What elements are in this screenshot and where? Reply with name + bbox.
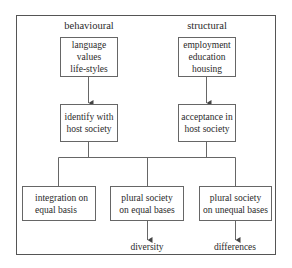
- heading-behavioural: behavioural: [60, 20, 118, 31]
- box-text: identify with host society: [65, 111, 114, 135]
- box-text: language values life-styles: [70, 39, 107, 75]
- box-integration-equal-basis: integration on equal basis: [22, 186, 96, 221]
- box-text: employment education housing: [183, 39, 231, 75]
- box-text: acceptance in host society: [181, 111, 232, 135]
- box-acceptance-in-host-society: acceptance in host society: [178, 104, 236, 142]
- box-plural-society-equal-bases: plural society on equal bases: [110, 186, 184, 221]
- box-employment-education-housing: employment education housing: [178, 37, 236, 77]
- box-text: plural society on unequal bases: [203, 192, 268, 216]
- box-plural-society-unequal-bases: plural society on unequal bases: [199, 186, 272, 221]
- connector-lines: [0, 0, 292, 268]
- box-text: integration on equal basis: [35, 192, 88, 216]
- outcome-differences: differences: [203, 242, 267, 252]
- box-language-values-lifestyles: language values life-styles: [60, 37, 118, 77]
- box-identify-with-host-society: identify with host society: [60, 104, 118, 142]
- heading-structural: structural: [178, 20, 236, 31]
- outcome-diversity: diversity: [117, 242, 177, 252]
- box-text: plural society on equal bases: [119, 192, 174, 216]
